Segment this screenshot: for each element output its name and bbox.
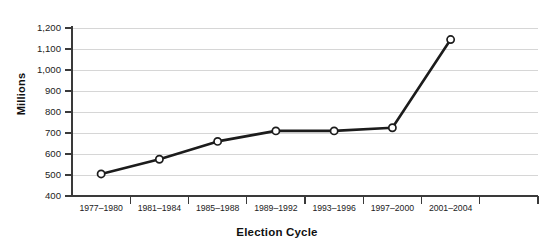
- x-tick-label: 2001–2004: [429, 203, 473, 213]
- x-axis-title: Election Cycle: [0, 226, 554, 238]
- y-tick-label: 800: [45, 106, 61, 117]
- data-point-marker: [447, 36, 454, 43]
- chart-plot-area: 4005006007008009001,0001,1001,200 1977–1…: [0, 0, 554, 249]
- data-point-marker: [389, 124, 396, 131]
- x-tick-label: 1981–1984: [138, 203, 182, 213]
- y-tick-label: 700: [45, 127, 61, 138]
- y-tick-label: 900: [45, 85, 61, 96]
- y-axis-ticks: [65, 28, 72, 196]
- data-point-marker: [98, 170, 105, 177]
- data-point-marker: [331, 127, 338, 134]
- y-tick-label: 1,100: [37, 43, 61, 54]
- x-tick-label: 1989–1992: [254, 203, 298, 213]
- line-chart: Millions 4005006007008009001,0001,1001,2…: [0, 0, 554, 249]
- y-tick-label: 500: [45, 169, 61, 180]
- x-tick-label: 1985–1988: [196, 203, 240, 213]
- x-axis-tick-labels: 1977–19801981–19841985–19881989–19921993…: [79, 203, 472, 213]
- y-tick-label: 600: [45, 148, 61, 159]
- data-point-marker: [156, 156, 163, 163]
- x-tick-label: 1997–2000: [371, 203, 415, 213]
- data-point-markers: [98, 36, 455, 178]
- y-tick-label: 400: [45, 190, 61, 201]
- x-axis: [72, 26, 538, 196]
- x-tick-label: 1977–1980: [79, 203, 123, 213]
- y-tick-label: 1,200: [37, 22, 61, 33]
- gridlines: [72, 28, 538, 175]
- x-tick-label: 1993–1996: [312, 203, 356, 213]
- data-point-marker: [214, 138, 221, 145]
- y-tick-label: 1,000: [37, 64, 61, 75]
- data-point-marker: [272, 127, 279, 134]
- y-axis-tick-labels: 4005006007008009001,0001,1001,200: [37, 22, 61, 201]
